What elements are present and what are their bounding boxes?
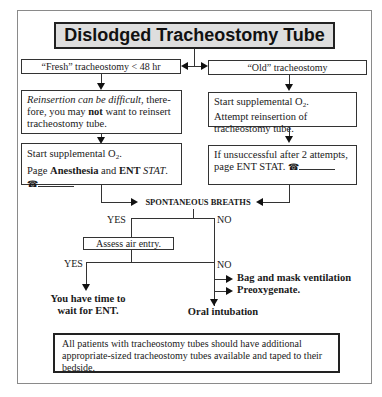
preoxygenate-label: Preoxygenate. <box>237 284 300 295</box>
and-text: and <box>98 165 118 176</box>
phone-number-blank <box>299 161 335 170</box>
reinsertion-warning-box: Reinsertion can be difficult, there-fore… <box>21 90 182 134</box>
start-o2-line-right: Start supplemental O2. <box>214 96 351 111</box>
page-line: Page Anesthesia and ENT STAT. <box>27 164 176 177</box>
fresh-header-label: “Fresh” tracheostomy < 48 hr <box>42 61 161 73</box>
page-period: . <box>165 165 168 176</box>
fresh-tracheostomy-header: “Fresh” tracheostomy < 48 hr <box>21 59 181 74</box>
arrow-left-icon <box>181 62 188 70</box>
page-text: Page <box>27 165 50 176</box>
reinsertion-bold-not: not <box>88 106 103 117</box>
page-title: Dislodged Tracheostomy Tube <box>54 22 335 49</box>
connector-decision2-yes <box>86 262 87 285</box>
start-o2-line: Start supplemental O2. <box>27 147 176 164</box>
decision1-yes-label: YES <box>107 214 126 225</box>
arrow-down-icon <box>285 136 293 143</box>
connector-decision1-yes <box>131 218 132 237</box>
arrow-right-icon <box>201 62 208 70</box>
phone-number-blank <box>38 178 74 187</box>
oral-intubation-label: Oral intubation <box>180 306 266 317</box>
old-tracheostomy-header: “Old” tracheostomy <box>208 60 367 75</box>
connector-left-merge-h <box>101 202 133 203</box>
connector-decision1-h <box>131 218 215 219</box>
connector-decision1-down <box>193 209 194 218</box>
page-anesthesia-box: Start supplemental O2. Page Anesthesia a… <box>21 143 182 185</box>
arrow-left-icon <box>256 198 263 206</box>
arrow-right-icon <box>131 198 138 206</box>
assess-air-entry-label: Assess air entry. <box>96 238 161 250</box>
start-o2-period: . <box>119 148 122 159</box>
phone-icon: ☎ <box>288 162 299 172</box>
attempt-reinsertion-text: Attempt reinsertion of tracheostomy tube… <box>214 111 351 135</box>
phone-icon: ☎ <box>27 179 38 189</box>
arrow-right-icon <box>226 275 233 283</box>
assess-air-entry-box: Assess air entry. <box>83 237 174 250</box>
connector-split <box>187 66 202 67</box>
arrow-right-icon <box>226 287 233 295</box>
ent-bold: ENT <box>119 165 141 176</box>
spontaneous-breaths-decision: SPONTANEOUS BREATHS <box>141 196 255 208</box>
wait-for-ent-line1: You have time to <box>38 293 138 305</box>
reinsertion-italic: Reinsertion can be difficult <box>27 94 141 105</box>
connector-decision2-h <box>86 262 214 263</box>
arrow-down-icon <box>285 84 293 91</box>
arrow-down-icon <box>97 83 105 90</box>
decision1-no-label: NO <box>217 214 231 225</box>
connector-right-merge-h <box>262 202 290 203</box>
wait-for-ent-label: You have time to wait for ENT. <box>38 293 138 317</box>
connector-title <box>194 49 195 66</box>
stat-italic: STAT <box>140 165 165 176</box>
connector-right-merge-v <box>289 185 290 202</box>
connector-decision2-down <box>131 250 132 262</box>
decision2-yes-label: YES <box>64 258 83 269</box>
start-o2-text-right: Start supplemental O <box>214 96 303 107</box>
start-o2-period-right: . <box>306 96 309 107</box>
wait-for-ent-line2: wait for ENT. <box>38 305 138 317</box>
old-header-label: “Old” tracheostomy <box>247 62 327 74</box>
arrow-down-icon <box>210 299 218 306</box>
start-o2-text: Start supplemental O <box>27 148 116 159</box>
connector-left-merge-v <box>101 185 102 202</box>
note-text: All patients with tracheostomy tubes sho… <box>62 338 322 373</box>
attempt-reinsertion-box: Start supplemental O2. Attempt reinserti… <box>208 92 357 127</box>
decision2-no-label: NO <box>217 259 231 270</box>
anesthesia-bold: Anesthesia <box>50 165 98 176</box>
arrow-down-icon <box>82 284 90 291</box>
connector-decision1-no <box>214 218 215 306</box>
bag-mask-ventilation-label: Bag and mask ventilation <box>237 272 351 283</box>
unsuccessful-attempts-box: If unsuccessful after 2 attempts, page E… <box>208 145 357 185</box>
note-box: All patients with tracheostomy tubes sho… <box>53 333 340 373</box>
